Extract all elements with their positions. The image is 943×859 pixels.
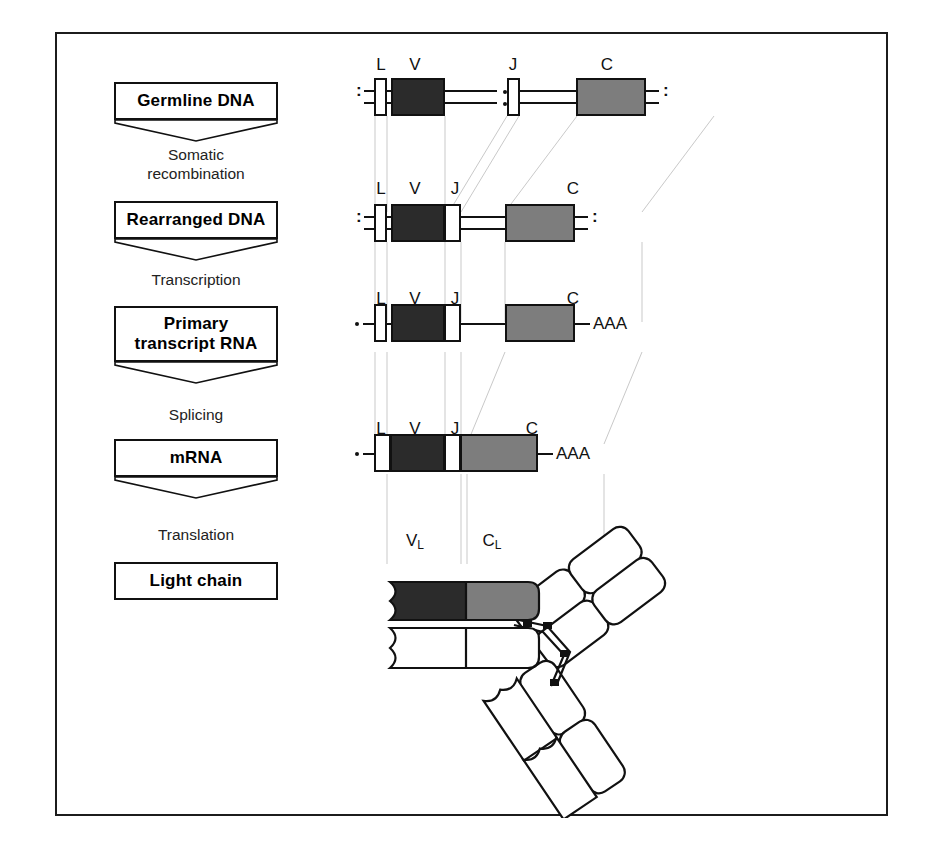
- segment-V-rearranged: [391, 204, 445, 242]
- chevron-rearranged-dna: [114, 238, 278, 262]
- process-label-somatic-recombination: Somatic recombination: [104, 146, 288, 183]
- domain-label-C-text: C: [483, 531, 495, 550]
- domain-VL-upper: [390, 582, 467, 620]
- poly-a-tail-mrna: AAA: [556, 445, 590, 462]
- strand-end-left-rearranged: :: [356, 208, 362, 225]
- strand-end-left-germline: :: [356, 82, 362, 99]
- segment-V-germline: [391, 78, 445, 116]
- segment-L-mrna: [374, 434, 391, 472]
- domain-CL-upper: [466, 582, 539, 620]
- segment-L-germline: [374, 78, 387, 116]
- light-chain-upper: [390, 582, 539, 627]
- stage-label-germline-dna: Germline DNA: [137, 91, 255, 111]
- domain-subscript-V: L: [417, 538, 424, 552]
- segment-label-J-germline: J: [493, 56, 533, 73]
- segment-C-mrna: [460, 434, 538, 472]
- stage-box-mrna: mRNA: [114, 439, 278, 477]
- segment-C-primary: [505, 304, 575, 342]
- stage-box-rearranged-dna: Rearranged DNA: [114, 201, 278, 239]
- chevron-mrna: [114, 476, 278, 500]
- segment-label-J-rearranged: J: [435, 180, 475, 197]
- segment-L-rearranged: [374, 204, 387, 242]
- segment-label-C-rearranged: C: [553, 180, 593, 197]
- disulfide-upper: [523, 619, 532, 627]
- poly-a-tail-primary: AAA: [593, 315, 627, 332]
- stage-box-light-chain: Light chain: [114, 562, 278, 600]
- process-label-transcription: Transcription: [104, 271, 288, 290]
- figure-frame: Germline DNA Somatic recombination Rearr…: [55, 32, 888, 816]
- chevron-germline-dna: [114, 119, 278, 143]
- segment-J-primary: [444, 304, 461, 342]
- stage-label-primary-rna: Primary transcript RNA: [135, 314, 258, 354]
- light-chain-lower: [390, 628, 539, 668]
- segment-C-rearranged: [505, 204, 575, 242]
- stage-label-light-chain: Light chain: [150, 571, 243, 591]
- domain-label-V-text: V: [406, 531, 417, 550]
- stage-box-primary-rna: Primary transcript RNA: [114, 306, 278, 362]
- segment-label-V-rearranged: V: [395, 180, 435, 197]
- domain-label-CL: CL: [472, 532, 512, 551]
- segment-V-primary: [391, 304, 445, 342]
- process-label-splicing: Splicing: [104, 406, 288, 425]
- strand-end-right-rearranged: :: [592, 208, 598, 225]
- stage-label-rearranged-dna: Rearranged DNA: [127, 210, 266, 230]
- segment-J-rearranged: [444, 204, 461, 242]
- domain-label-VL: VL: [395, 532, 435, 551]
- segment-J-mrna: [444, 434, 461, 472]
- stage-box-germline-dna: Germline DNA: [114, 82, 278, 120]
- chevron-primary-rna: [114, 361, 278, 385]
- segment-label-V-germline: V: [395, 56, 435, 73]
- strand-end-right-germline: :: [663, 82, 669, 99]
- process-label-translation: Translation: [104, 526, 288, 545]
- domain-VH-lower: [390, 628, 467, 668]
- stage-label-mrna: mRNA: [170, 448, 223, 468]
- strand-end-left-primary: [355, 322, 359, 326]
- segment-C-germline: [576, 78, 646, 116]
- segment-label-C-germline: C: [587, 56, 627, 73]
- segment-J-germline: [507, 78, 520, 116]
- domain-subscript-C: L: [495, 538, 502, 552]
- segment-V-mrna: [390, 434, 445, 472]
- domain-CH-lower: [466, 628, 539, 668]
- strand-end-left-mrna: [355, 452, 359, 456]
